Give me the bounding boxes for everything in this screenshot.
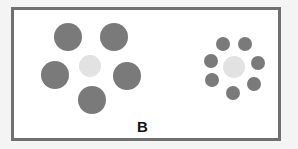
right-cluster-outer-circle — [205, 73, 219, 87]
right-cluster-outer-circle — [216, 37, 230, 51]
left-cluster-outer-circle — [100, 23, 128, 51]
right-cluster-outer-circle — [238, 37, 252, 51]
right-cluster-outer-circle — [226, 86, 240, 100]
right-cluster-outer-circle — [247, 77, 261, 91]
figure-label: B — [137, 118, 148, 135]
right-cluster-outer-circle — [204, 54, 218, 68]
left-cluster-center-circle — [79, 55, 101, 77]
right-cluster-center-circle — [223, 56, 245, 78]
left-cluster-outer-circle — [113, 62, 141, 90]
left-cluster-outer-circle — [41, 61, 69, 89]
left-cluster-outer-circle — [78, 86, 106, 114]
illusion-diagram — [0, 0, 298, 149]
right-cluster-outer-circle — [251, 56, 265, 70]
left-cluster-outer-circle — [54, 23, 82, 51]
